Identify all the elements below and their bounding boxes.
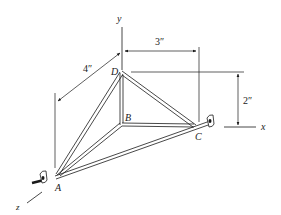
bearing-a — [32, 171, 47, 183]
x-axis: x — [224, 121, 266, 132]
y-axis-label: y — [116, 13, 122, 24]
truss-diagram: y x z 3″ 2″ 4″ — [0, 0, 281, 215]
dimension-4in-label: 4″ — [83, 63, 92, 74]
x-axis-label: x — [260, 121, 266, 132]
dimension-3in: 3″ — [125, 36, 199, 122]
z-axis: z — [15, 192, 42, 212]
point-c-label: C — [195, 131, 202, 142]
point-d-label: D — [110, 66, 119, 77]
dimension-2in: 2″ — [131, 72, 252, 125]
truss-members — [55, 71, 211, 179]
z-axis-label: z — [15, 202, 20, 212]
y-axis: y — [116, 13, 122, 70]
dimension-3in-label: 3″ — [155, 36, 164, 47]
point-a-label: A — [54, 182, 62, 193]
dimension-2in-label: 2″ — [243, 95, 252, 106]
point-b-label: B — [125, 112, 131, 123]
